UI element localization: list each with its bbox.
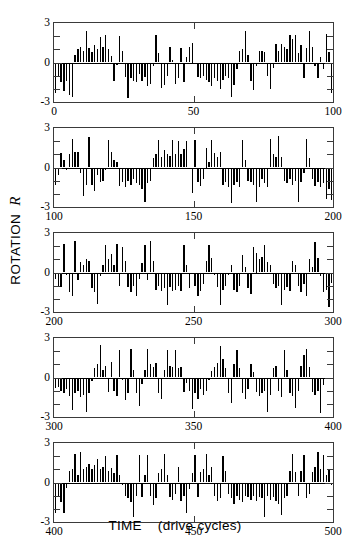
y-tick-label: 3 [28,437,50,449]
data-bar [256,253,257,273]
data-bar [167,154,168,167]
data-bar [169,483,170,497]
data-bar [136,483,137,496]
data-bar [197,273,198,297]
data-bar [239,168,240,188]
data-bar [94,45,95,62]
data-bar [242,140,243,168]
data-bar [77,378,78,391]
data-bar [77,273,78,281]
data-bar [317,63,318,79]
data-bar [105,168,106,171]
data-bar [72,273,73,297]
data-bar [281,483,282,516]
data-bar [298,483,299,496]
data-bar [317,258,318,272]
data-bar [150,63,151,84]
data-bar [192,168,193,193]
y-axis-minor-tick [327,76,333,77]
chart-panel [53,442,334,523]
data-bar [270,483,271,500]
data-bar [275,273,276,289]
data-bar [60,273,61,287]
data-bar [259,259,260,272]
y-axis-minor-tick [54,76,60,77]
data-bar [74,241,75,273]
data-bar [58,378,59,387]
data-bar [270,378,271,395]
data-bar [175,350,176,378]
data-bar [74,378,75,394]
data-bar [233,168,234,185]
data-bar [180,483,181,501]
y-tick-label: 3 [28,227,50,239]
y-axis-minor-tick [54,181,60,182]
data-bar [102,370,103,378]
y-axis-minor-tick [327,49,333,50]
data-bar [295,378,296,408]
data-bar [116,63,117,66]
data-bar [309,367,310,378]
x-tick-label-group: 200250300 [0,316,350,330]
data-bar [267,168,268,188]
data-bar [231,168,232,204]
data-bar [242,378,243,394]
data-bar [320,469,321,482]
data-bar [86,259,87,272]
x-axis-tick [194,306,195,312]
data-bar [317,452,318,482]
data-bar [63,378,64,394]
data-bar [189,378,190,391]
data-bar [220,346,221,378]
data-bar [139,378,140,407]
data-bar [206,378,207,391]
data-bar [80,452,81,482]
data-bar [111,56,112,63]
data-bar [306,349,307,378]
data-bar [66,168,67,171]
data-bar [289,168,290,180]
data-bar [233,364,234,377]
y-axis-minor-tick [54,89,60,90]
data-bar [220,63,221,89]
data-bar [113,265,114,273]
data-bar [125,261,126,273]
data-bar [60,378,61,391]
data-bar [256,378,257,392]
data-bar [94,368,95,377]
data-bar [139,273,140,280]
y-axis-minor-tick [327,456,333,457]
data-bar [323,455,324,483]
data-bar [281,44,282,62]
data-bar [270,139,271,168]
data-bar [97,168,98,176]
y-axis-major-tick [325,168,333,169]
data-bar [239,51,240,63]
data-bar [150,364,151,377]
data-bar [192,378,193,410]
data-bar [178,467,179,483]
data-bar [102,467,103,483]
x-tick-label-group: 300350400 [0,421,350,435]
data-bar [239,368,240,377]
data-bar [203,168,204,180]
data-bar [113,63,114,81]
data-bar [189,47,190,63]
data-bar [144,475,145,483]
data-bar [105,456,106,482]
x-axis-tick [194,96,195,102]
data-bar [113,378,114,391]
data-bar [331,168,332,201]
data-bar [74,55,75,63]
data-bar [217,157,218,168]
data-bar [155,273,156,290]
data-bar [278,51,279,63]
data-bar [267,262,268,273]
data-bar [211,63,212,87]
data-bar [281,378,282,398]
data-bar [144,370,145,378]
data-bar [320,378,321,414]
data-bar [127,273,128,287]
y-axis-minor-tick [54,496,60,497]
data-bar [186,141,187,167]
